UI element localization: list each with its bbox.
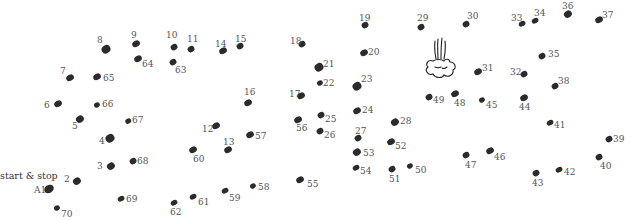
dot-67 (124, 118, 131, 125)
dot-70 (53, 204, 61, 211)
dot-label-37: 37 (602, 11, 613, 20)
dot-label-31: 31 (482, 64, 493, 73)
steam-puff-cloud-icon (423, 37, 457, 79)
dot-30 (462, 20, 471, 28)
dot-11 (187, 45, 196, 53)
dot-label-30: 30 (467, 12, 478, 21)
dot-40 (595, 153, 604, 161)
dot-65 (92, 72, 102, 81)
dot-16 (243, 98, 253, 107)
dot-label-51: 51 (389, 175, 400, 184)
dot-label-33: 33 (511, 14, 522, 23)
dot-label-22: 22 (323, 79, 334, 88)
dot-label-53: 53 (363, 149, 374, 158)
dot-label-24: 24 (362, 106, 373, 115)
dot-label-50: 50 (415, 166, 426, 175)
dot-label-13: 13 (223, 138, 234, 147)
start-stop-label: start & stop (0, 170, 58, 181)
dot-label-55: 55 (307, 180, 318, 189)
dot-label-5: 5 (72, 122, 78, 131)
dot-label-34: 34 (534, 9, 545, 18)
dot-label-23: 23 (361, 75, 372, 84)
dot-label-8: 8 (97, 36, 103, 45)
dot-28 (390, 117, 401, 127)
dot-label-15: 15 (235, 35, 246, 44)
dot-label-17: 17 (289, 90, 300, 99)
dot-43 (532, 169, 541, 177)
dot-label-40: 40 (600, 162, 611, 171)
dot-label-46: 46 (494, 153, 505, 162)
dot-label-56: 56 (296, 124, 307, 133)
dot-29 (417, 23, 426, 31)
dot-label-66: 66 (102, 100, 113, 109)
dot-label-64: 64 (142, 60, 153, 69)
dot-label-35: 35 (548, 50, 559, 59)
dot-34 (531, 17, 539, 25)
dot-4 (104, 132, 116, 143)
dot-label-16: 16 (244, 88, 255, 97)
dot-label-45: 45 (486, 101, 497, 110)
dot-6 (53, 99, 63, 108)
dot-label-58: 58 (258, 183, 269, 192)
dot-label-47: 47 (465, 161, 476, 170)
dot-7 (65, 73, 75, 82)
dot-label-43: 43 (532, 179, 543, 188)
dot-label-28: 28 (400, 117, 411, 126)
dot-label-29: 29 (417, 14, 428, 23)
dot-label-25: 25 (325, 115, 336, 124)
dot-label-20: 20 (368, 48, 379, 57)
dot-label-12: 12 (202, 125, 213, 134)
dot-label-63: 63 (175, 66, 186, 75)
dot-69 (117, 195, 125, 203)
dot-59 (221, 187, 229, 195)
dot-label-21: 21 (323, 60, 334, 69)
dot-42 (555, 166, 563, 174)
dot-label-65: 65 (103, 74, 114, 83)
dot-label-48: 48 (454, 99, 465, 108)
dot-55 (295, 175, 305, 184)
dot-label-9: 9 (131, 31, 137, 40)
dot-label-68: 68 (137, 157, 148, 166)
dot-47 (462, 151, 471, 159)
dot-9 (131, 39, 141, 48)
dot-label-36: 36 (562, 2, 573, 11)
dot-label-11: 11 (187, 35, 198, 44)
dot-41 (546, 119, 554, 127)
dot-label-38: 38 (558, 77, 569, 86)
dot-label-41: 41 (554, 121, 565, 130)
dot-2 (72, 176, 83, 186)
dot-label-18: 18 (290, 37, 301, 46)
dot-label-69: 69 (126, 195, 137, 204)
dot-label-61: 61 (198, 198, 209, 207)
dot-label-2: 2 (64, 175, 70, 184)
dot-label-26: 26 (324, 131, 335, 140)
dot-label-52: 52 (395, 142, 406, 151)
dot-label-62: 62 (170, 208, 181, 217)
dot-label-57: 57 (255, 132, 266, 141)
dot-label-44: 44 (519, 103, 530, 112)
dot-54 (352, 164, 360, 172)
dot-label-67: 67 (132, 116, 143, 125)
dot-57 (245, 130, 255, 139)
dot-label-49: 49 (433, 96, 444, 105)
dot-10 (170, 43, 179, 51)
dot-label-4: 4 (99, 137, 105, 146)
dot-label-3: 3 (97, 162, 103, 171)
dot-label-27: 27 (355, 127, 366, 136)
dot-66 (93, 101, 101, 108)
dot-35 (538, 52, 547, 60)
dot-label-7: 7 (60, 67, 66, 76)
dot-51 (388, 165, 397, 173)
dot-58 (249, 182, 257, 189)
dot-label-39: 39 (613, 135, 624, 144)
dot-label-A1: A1 (34, 186, 46, 195)
dot-8 (100, 43, 112, 54)
dot-label-42: 42 (564, 168, 575, 177)
dot-3 (106, 161, 117, 171)
dot-label-14: 14 (215, 40, 226, 49)
dot-label-59: 59 (229, 194, 240, 203)
dot-label-19: 19 (359, 14, 370, 23)
dot-50 (406, 162, 414, 169)
dot-label-60: 60 (193, 155, 204, 164)
dot-45 (478, 96, 486, 103)
